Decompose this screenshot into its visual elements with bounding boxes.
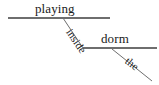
object-of-preposition-label: dorm	[101, 32, 129, 45]
sentence-diagram: playing inside dorm the	[0, 0, 159, 85]
predicate-label: playing	[35, 2, 75, 15]
